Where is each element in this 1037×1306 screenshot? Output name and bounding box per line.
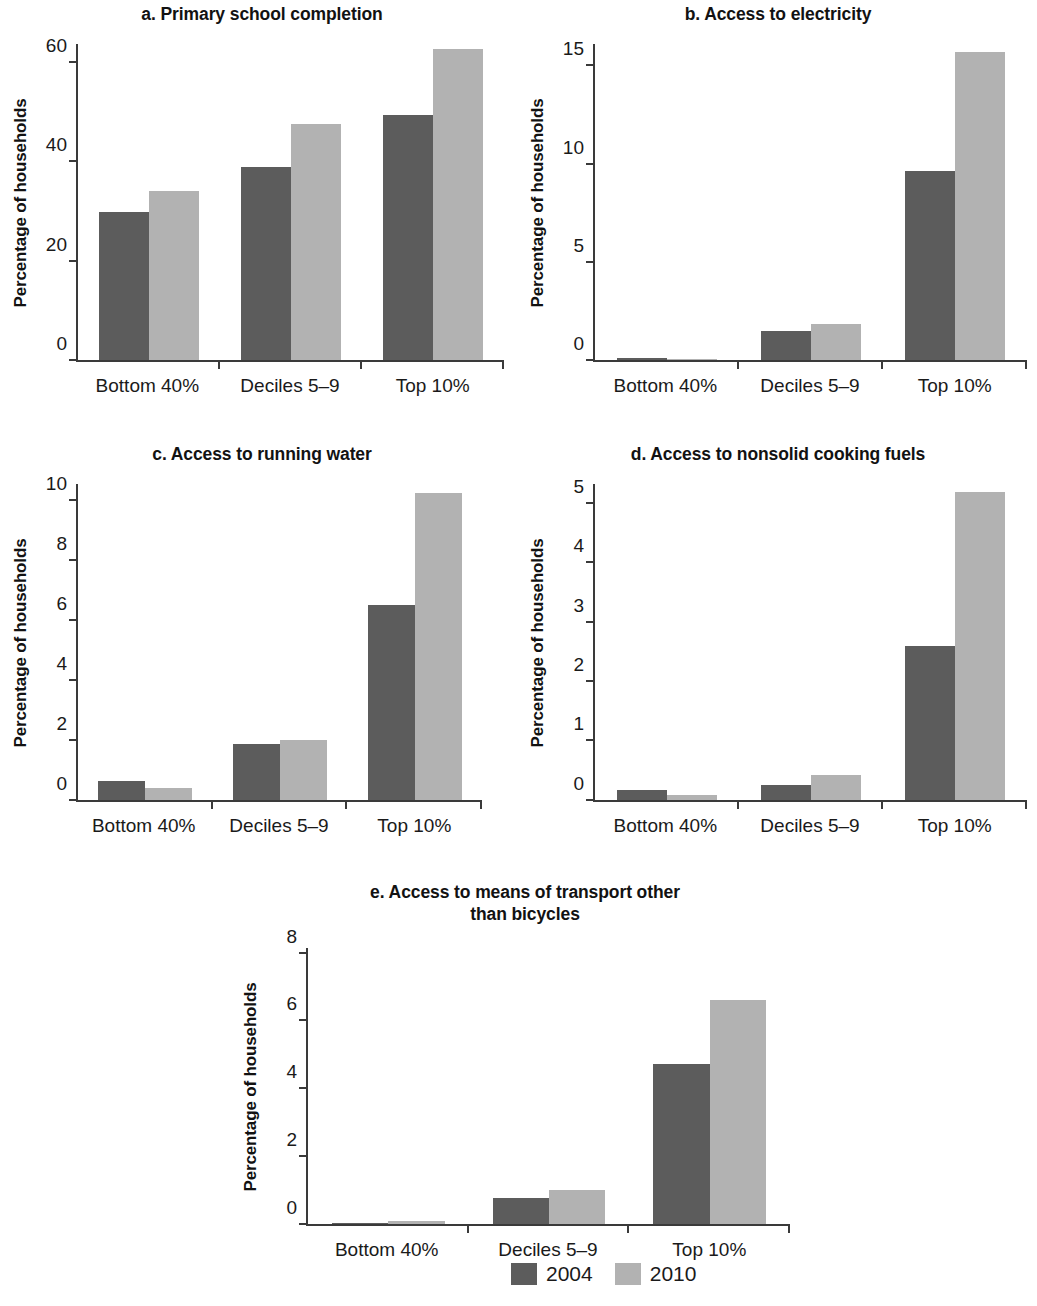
- xaxis-category-label: Top 10%: [361, 375, 504, 397]
- bar-2004: [368, 605, 415, 800]
- panel-a-ytick-mark: [69, 260, 76, 262]
- panel-d-title: d. Access to nonsolid cooking fuels: [523, 444, 1033, 466]
- panel-a-ytick-label: 20: [46, 234, 67, 253]
- panel-d-ytick-label: 1: [573, 714, 584, 733]
- panel-a-ytick-mark: [69, 61, 76, 63]
- legend-item-2004: 2004: [511, 1262, 593, 1286]
- bar-2010: [149, 191, 199, 360]
- panel-d-ytick-mark: [586, 739, 593, 741]
- panel-e-ytick-column: 02468: [266, 948, 306, 1226]
- bar-2010: [280, 740, 327, 800]
- panel-d-ytick-label: 3: [573, 595, 584, 614]
- panel-a-ylabel-wrap: Percentage of households: [6, 44, 36, 362]
- panel-e-ytick-mark: [299, 1155, 306, 1157]
- bar-2004: [617, 790, 667, 799]
- panel-d-ytick-column: 012345: [553, 484, 593, 802]
- panel-a-bars-layer: [78, 44, 504, 360]
- panel-e-xticks-layer: [308, 1224, 790, 1233]
- panel-c-ytick-label: 2: [56, 713, 67, 732]
- panel-d: d. Access to nonsolid cooking fuels Perc…: [523, 444, 1033, 837]
- panel-d-ytick-mark: [586, 502, 593, 504]
- bar-group: [213, 484, 348, 800]
- panel-e: e. Access to means of transport other th…: [236, 882, 814, 1261]
- panel-b-xlabels: Bottom 40%Deciles 5–9Top 10%: [593, 375, 1027, 397]
- panel-a-ytick-label: 60: [46, 35, 67, 54]
- panel-d-xtick-mark: [1025, 800, 1027, 809]
- panel-b-xtick-mark: [881, 360, 883, 369]
- panel-e-ytick-mark: [299, 1087, 306, 1089]
- bar-2010: [811, 324, 861, 360]
- panel-c-plot-row: Percentage of households 0246810: [6, 484, 518, 802]
- panel-e-xtick-mark: [627, 1224, 629, 1233]
- bar-2010: [549, 1190, 605, 1224]
- panel-b-ytick-mark: [586, 163, 593, 165]
- panel-e-xlabels: Bottom 40%Deciles 5–9Top 10%: [306, 1239, 790, 1261]
- panel-a-xtick-mark: [502, 360, 504, 369]
- xaxis-category-label: Deciles 5–9: [738, 815, 883, 837]
- panel-e-plot-area: [306, 948, 790, 1226]
- bar-2004: [617, 358, 667, 360]
- panel-d-plot-area: [593, 484, 1027, 802]
- panel-c-xtick-mark: [211, 800, 213, 809]
- bar-2010: [955, 492, 1005, 800]
- bar-2004: [241, 167, 291, 360]
- bar-2004: [493, 1198, 549, 1224]
- bar-2010: [667, 795, 717, 800]
- panel-a-xlabels: Bottom 40%Deciles 5–9Top 10%: [76, 375, 504, 397]
- panel-d-ytick-label: 2: [573, 655, 584, 674]
- bar-group: [469, 948, 630, 1224]
- bar-2010: [710, 1000, 766, 1224]
- figure-multi-panel-bar-charts: a. Primary school completion Percentage …: [0, 0, 1037, 1306]
- panel-b-ytick-label: 10: [563, 137, 584, 156]
- panel-e-ytick-mark: [299, 952, 306, 954]
- panel-d-ytick-mark: [586, 680, 593, 682]
- panel-c-ytick-label: 8: [56, 533, 67, 552]
- legend-swatch-2010: [615, 1263, 641, 1285]
- panel-d-plot-row: Percentage of households 012345: [523, 484, 1033, 802]
- chart-legend: 20042010: [511, 1262, 696, 1286]
- panel-e-bars-layer: [308, 948, 790, 1224]
- bar-2004: [905, 171, 955, 360]
- bar-group: [883, 44, 1027, 360]
- bar-2010: [388, 1221, 444, 1224]
- bar-2004: [98, 781, 145, 800]
- xaxis-category-label: Bottom 40%: [593, 375, 738, 397]
- panel-c-ylabel: Percentage of households: [11, 538, 31, 747]
- panel-b: b. Access to electricity Percentage of h…: [523, 4, 1033, 397]
- bar-2010: [415, 493, 462, 800]
- bar-2010: [811, 775, 861, 800]
- panel-e-ytick-label: 0: [286, 1197, 297, 1216]
- panel-d-ytick-label: 4: [573, 536, 584, 555]
- panel-c-xtick-mark: [345, 800, 347, 809]
- panel-d-ylabel-wrap: Percentage of households: [523, 484, 553, 802]
- panel-e-ytick-mark: [299, 1223, 306, 1225]
- panel-b-ytick-mark: [586, 359, 593, 361]
- bar-2010: [433, 49, 483, 360]
- bar-group: [220, 44, 362, 360]
- xaxis-category-label: Bottom 40%: [76, 815, 211, 837]
- panel-e-xtick-mark: [467, 1224, 469, 1233]
- xaxis-category-label: Bottom 40%: [593, 815, 738, 837]
- panel-b-ytick-label: 5: [573, 235, 584, 254]
- panel-d-xticks-layer: [595, 800, 1027, 809]
- panel-c-ytick-mark: [69, 799, 76, 801]
- xaxis-category-label: Top 10%: [347, 815, 482, 837]
- panel-b-title: b. Access to electricity: [523, 4, 1033, 26]
- panel-d-bars-layer: [595, 484, 1027, 800]
- panel-a-plot-row: Percentage of households 0204060: [6, 44, 518, 362]
- panel-e-xtick-mark: [788, 1224, 790, 1233]
- panel-c-ytick-label: 4: [56, 653, 67, 672]
- panel-c-ylabel-wrap: Percentage of households: [6, 484, 36, 802]
- panel-b-xtick-mark: [737, 360, 739, 369]
- bar-group: [629, 948, 790, 1224]
- xaxis-category-label: Bottom 40%: [306, 1239, 467, 1261]
- panel-b-ytick-label: 15: [563, 39, 584, 58]
- panel-e-ylabel-wrap: Percentage of households: [236, 948, 266, 1226]
- panel-d-ytick-label: 0: [573, 773, 584, 792]
- panel-d-xtick-mark: [881, 800, 883, 809]
- panel-b-ytick-mark: [586, 64, 593, 66]
- bar-group: [347, 484, 482, 800]
- bar-2010: [291, 124, 341, 360]
- bar-group: [362, 44, 504, 360]
- panel-b-xticks-layer: [595, 360, 1027, 369]
